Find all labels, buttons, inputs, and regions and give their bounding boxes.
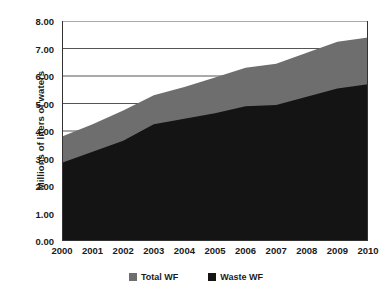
area-chart: Millions of liters of waters 0.001.002.0… <box>0 0 392 296</box>
legend-label: Waste WF <box>220 272 263 282</box>
legend-entry[interactable]: Waste WF <box>208 272 263 282</box>
x-axis-tick-labels: 2000200120022003200420052006200720082009… <box>62 245 368 263</box>
y-tick-label: 1.00 <box>12 208 54 219</box>
plot-svg <box>62 21 368 241</box>
legend-entry[interactable]: Total WF <box>129 272 178 282</box>
y-tick-label: 6.00 <box>12 71 54 82</box>
y-tick-label: 4.00 <box>12 126 54 137</box>
x-tick-label: 2010 <box>348 245 388 256</box>
y-tick-label: 3.00 <box>12 153 54 164</box>
y-tick-label: 2.00 <box>12 181 54 192</box>
plot-area <box>62 21 368 241</box>
legend-label: Total WF <box>141 272 178 282</box>
legend-swatch-icon <box>129 273 137 281</box>
chart-legend: Total WFWaste WF <box>0 272 392 282</box>
y-tick-label: 5.00 <box>12 98 54 109</box>
legend-swatch-icon <box>208 273 216 281</box>
y-tick-label: 8.00 <box>12 16 54 27</box>
y-tick-label: 7.00 <box>12 43 54 54</box>
